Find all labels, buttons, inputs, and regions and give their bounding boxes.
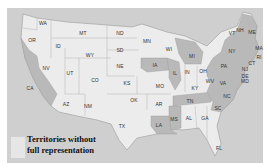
state-label-ny: NY [228, 48, 235, 54]
state-label-ar: AR [155, 101, 162, 107]
legend-line-1: Territories without [27, 134, 96, 145]
state-label-nv: NV [42, 65, 49, 71]
state-label-vt: VT [229, 30, 236, 36]
state-label-nj: NJ [242, 66, 248, 72]
state-label-ne: NE [116, 63, 123, 69]
state-label-or: OR [28, 37, 36, 43]
state-label-la: LA [156, 122, 162, 128]
state-label-nc: NC [223, 93, 230, 99]
state-label-ca: CA [26, 85, 33, 91]
state-label-ma: MA [255, 45, 263, 51]
legend-line-2: full representation [27, 145, 96, 156]
state-label-mn: MN [143, 38, 151, 44]
state-label-ga: GA [201, 115, 208, 121]
state-label-mi: MI [189, 53, 195, 59]
state-label-al: AL [186, 115, 192, 121]
state-label-sc: SC [214, 105, 221, 111]
state-label-ia: IA [153, 62, 158, 68]
state-label-oh: OH [199, 68, 207, 74]
state-label-ri: RI [256, 54, 261, 60]
state-label-fl: FL [216, 145, 222, 151]
state-label-il: IL [173, 70, 177, 76]
state-label-nh: NH [236, 27, 243, 33]
state-label-ks: KS [124, 80, 131, 86]
state-label-wv: WV [206, 78, 214, 84]
state-label-mt: MT [79, 30, 86, 36]
state-label-ct: CT [249, 60, 256, 66]
state-label-nd: ND [116, 30, 123, 36]
legend-swatch [10, 136, 26, 159]
state-label-ok: OK [130, 97, 137, 103]
state-label-wy: WY [86, 52, 94, 58]
legend: Territories without full representation [10, 134, 100, 160]
state-label-ut: UT [67, 70, 74, 76]
state-label-ms: MS [170, 116, 178, 122]
state-label-co: CO [91, 77, 99, 83]
state-label-me: ME [248, 29, 256, 35]
state-label-tn: TN [187, 98, 194, 104]
state-label-md: MD [241, 78, 249, 84]
state-label-wi: WI [166, 46, 172, 52]
legend-text: Territories without full representation [27, 134, 96, 156]
state-label-nm: NM [84, 103, 92, 109]
state-label-mo: MO [156, 83, 164, 89]
state-label-pa: PA [221, 63, 228, 69]
state-label-wa: WA [39, 20, 47, 26]
state-label-tx: TX [119, 123, 126, 129]
state-label-ky: KY [192, 85, 199, 91]
state-label-va: VA [220, 80, 227, 86]
state-label-id: ID [55, 43, 60, 49]
state-label-sd: SD [116, 47, 123, 53]
state-label-in: IN [184, 69, 189, 75]
state-label-az: AZ [63, 101, 70, 107]
